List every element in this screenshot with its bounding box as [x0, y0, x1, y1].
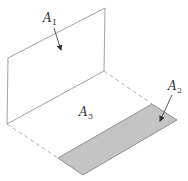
floor-edge-back-dashed	[104, 71, 152, 104]
label-a1-main: A	[42, 11, 52, 25]
label-a2-main: A	[167, 79, 177, 93]
label-a3-main: A	[78, 105, 88, 119]
label-a3-sub: 3	[88, 112, 93, 121]
label-a1: A 1	[42, 11, 57, 27]
label-a1-sub: 1	[52, 18, 57, 27]
label-a3: A 3	[78, 105, 93, 121]
label-a2: A 2	[167, 79, 182, 95]
diagram-canvas: A 1 A 2 A 3	[0, 0, 188, 181]
label-a2-sub: 2	[177, 86, 182, 95]
floor-edge-left-dashed	[7, 124, 58, 158]
surface-a2-strip	[58, 104, 177, 175]
